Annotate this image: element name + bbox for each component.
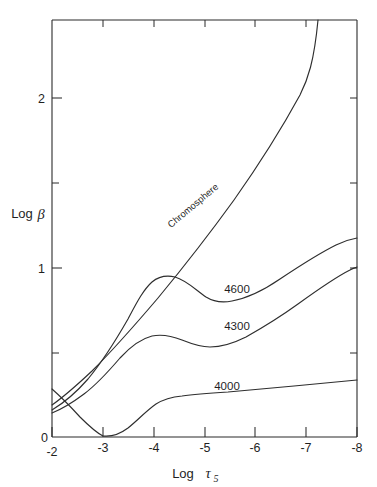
figure-container: 2 1 0 -2 -3 -4 -5 -6 -7 -8 Log β Log τ 5 [0, 0, 377, 487]
y-tick-label-2: 2 [38, 92, 45, 106]
x-axis-title-symbol-tau: τ [205, 465, 211, 481]
curve-label-4000: 4000 [214, 380, 240, 392]
x-tick-label-minus4: -4 [148, 441, 159, 455]
x-axis-title-prefix: Log [172, 466, 194, 481]
y-axis-title: Log β [11, 206, 45, 222]
x-tick-label-minus7: -7 [300, 441, 311, 455]
curve-4300 [52, 267, 357, 413]
chart-canvas: 2 1 0 -2 -3 -4 -5 -6 -7 -8 Log β Log τ 5 [0, 0, 377, 487]
right-axis-ticks [350, 98, 357, 353]
y-axis-title-prefix: Log [11, 206, 33, 221]
curve-label-4600: 4600 [224, 283, 250, 295]
x-tick-label-minus2: -2 [46, 445, 57, 459]
curve-label-4300: 4300 [224, 320, 250, 332]
top-axis-ticks [103, 20, 306, 27]
x-axis-title-subscript: 5 [214, 473, 219, 484]
x-tick-label-minus5: -5 [199, 441, 210, 455]
plot-frame [52, 20, 357, 437]
data-curves [52, 20, 357, 436]
x-tick-label-minus3: -3 [97, 441, 108, 455]
x-tick-label-minus6: -6 [249, 441, 260, 455]
y-tick-label-1: 1 [38, 262, 45, 276]
x-axis-ticks [52, 427, 357, 437]
y-axis-title-symbol-beta: β [36, 206, 45, 222]
x-tick-label-minus8: -8 [351, 441, 362, 455]
x-axis-title: Log τ 5 [172, 465, 218, 484]
y-tick-label-0: 0 [41, 431, 48, 445]
curve-label-chromosphere: Chromosphere [165, 181, 220, 230]
y-axis-ticks [52, 98, 62, 353]
